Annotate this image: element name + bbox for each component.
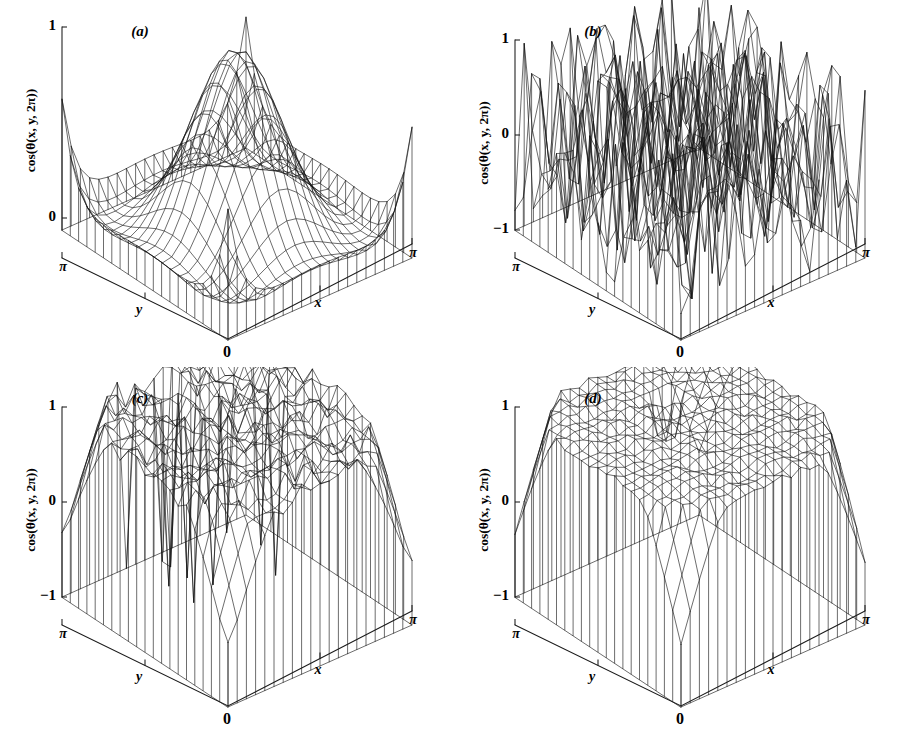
origin-label: 0	[676, 343, 684, 360]
z-tick-label: 1	[502, 30, 510, 46]
y-axis-max-label: π	[59, 259, 67, 274]
z-tick-label: 1	[49, 397, 57, 413]
z-axis-label: cos(θ(x, y, 2π))	[23, 89, 38, 172]
panel-b: −101cos(θ(x, y, 2π))(b)ππ0yx	[453, 0, 905, 367]
x-axis-name: x	[314, 295, 322, 310]
y-axis-name: y	[587, 302, 596, 317]
panel-d: −101cos(θ(x, y, 2π))(d)ππ0yx	[453, 367, 905, 734]
x-axis-name: x	[767, 295, 775, 310]
z-tick-label: 1	[502, 397, 510, 413]
surface-plot-c: −101cos(θ(x, y, 2π))(c)ππ0yx	[0, 367, 452, 734]
panel-tag: (d)	[584, 390, 602, 407]
y-axis-max-label: π	[512, 626, 520, 641]
z-axis-label: cos(θ(x, y, 2π))	[476, 468, 491, 551]
panel-tag: (b)	[584, 23, 602, 40]
x-axis-max-label: π	[409, 612, 417, 627]
origin-label: 0	[676, 710, 684, 727]
z-tick-label: −1	[493, 587, 509, 603]
z-tick-label: −1	[493, 220, 509, 236]
mesh-wireframe	[515, 0, 865, 340]
panel-c: −101cos(θ(x, y, 2π))(c)ππ0yx	[0, 367, 452, 734]
mesh-wireframe	[62, 367, 412, 707]
surface-plot-a: 01cos(θ(x, y, 2π))(a)ππ0yx	[0, 0, 452, 367]
x-axis-max-label: π	[409, 245, 417, 260]
mesh-wireframe	[515, 367, 865, 707]
panel-tag: (a)	[131, 23, 149, 40]
panel-tag: (c)	[132, 390, 149, 407]
z-tick-label: 0	[49, 492, 57, 508]
x-axis-max-label: π	[862, 612, 870, 627]
x-axis-name: x	[767, 662, 775, 677]
y-axis-name: y	[134, 669, 143, 684]
mesh-wireframe	[62, 17, 412, 340]
y-axis-max-label: π	[512, 259, 520, 274]
x-axis-max-label: π	[862, 245, 870, 260]
axes: −101	[493, 397, 865, 706]
origin-label: 0	[223, 343, 231, 360]
z-axis-label: cos(θ(x, y, 2π))	[476, 101, 491, 184]
y-axis-max-label: π	[59, 626, 67, 641]
x-axis-name: x	[314, 662, 322, 677]
z-tick-label: 0	[502, 492, 510, 508]
figure-surface-plots: 01cos(θ(x, y, 2π))(a)ππ0yx −101cos(θ(x, …	[0, 0, 905, 734]
y-axis-name: y	[587, 669, 596, 684]
z-tick-label: 0	[502, 125, 510, 141]
surface-plot-b: −101cos(θ(x, y, 2π))(b)ππ0yx	[453, 0, 905, 367]
z-tick-label: 1	[49, 17, 57, 33]
axes: −101	[40, 397, 412, 706]
z-tick-label: −1	[40, 587, 56, 603]
z-axis-label: cos(θ(x, y, 2π))	[23, 468, 38, 551]
surface-plot-d: −101cos(θ(x, y, 2π))(d)ππ0yx	[453, 367, 905, 734]
panel-a: 01cos(θ(x, y, 2π))(a)ππ0yx	[0, 0, 452, 367]
origin-label: 0	[223, 710, 231, 727]
z-tick-label: 0	[49, 208, 57, 224]
y-axis-name: y	[134, 302, 143, 317]
